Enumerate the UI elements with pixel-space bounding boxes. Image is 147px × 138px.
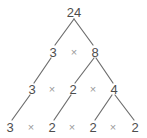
tree-edges [0,0,147,138]
tree-edge-5 [96,58,113,83]
tree-edge-2 [74,19,93,45]
tree-edge-9 [115,95,134,120]
tree-edge-1 [55,19,74,45]
multiply-operator-icon-l2-1: × [71,47,77,58]
multiply-operator-icon-l3-1: × [49,84,55,95]
tree-edge-8 [95,95,112,120]
tree-node-l4-4: 2 [131,121,138,134]
tree-node-l2-1: 3 [49,46,56,59]
tree-edge-3 [34,58,51,83]
multiply-operator-icon-l4-2: × [69,122,75,133]
tree-node-l2-2: 8 [91,46,98,59]
multiply-operator-icon-l4-1: × [28,122,34,133]
tree-edge-7 [54,95,71,120]
tree-edge-4 [75,58,94,83]
multiply-operator-icon-l4-3: × [110,122,116,133]
tree-node-l3-2: 2 [69,83,76,96]
tree-node-l4-2: 2 [48,121,55,134]
tree-node-l4-1: 3 [6,121,13,134]
tree-node-l3-3: 4 [110,83,117,96]
tree-edge-6 [12,95,30,120]
multiply-operator-icon-l3-2: × [90,84,96,95]
factor-tree-diagram: 24 3 × 8 3 × 2 × 4 3 × 2 × 2 × 2 [0,0,147,138]
tree-node-l3-1: 3 [28,83,35,96]
tree-node-l4-3: 2 [89,121,96,134]
tree-node-root: 24 [67,6,81,19]
